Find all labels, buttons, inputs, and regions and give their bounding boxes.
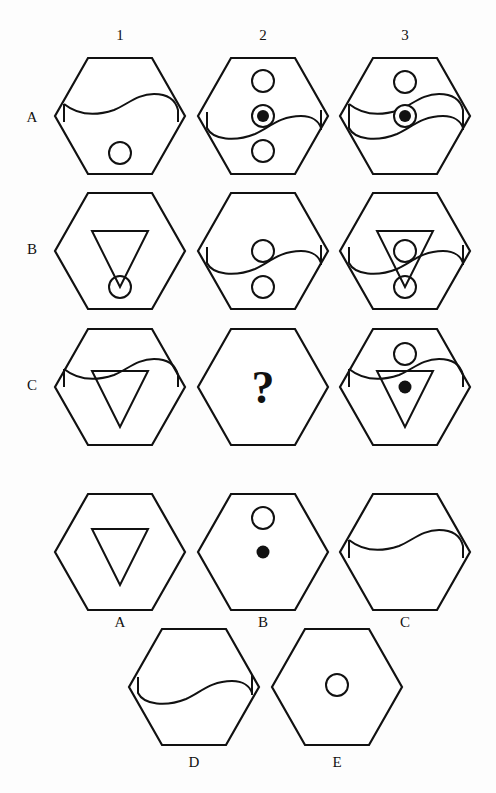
column-header-2: 2 bbox=[259, 27, 267, 43]
hexagon-frame bbox=[55, 193, 185, 309]
answer-label-e: E bbox=[332, 754, 341, 770]
answer-option-b[interactable] bbox=[198, 494, 328, 610]
cell-b1 bbox=[55, 193, 185, 309]
row-label-b: B bbox=[27, 241, 37, 257]
puzzle-canvas: 1 2 3 A B C bbox=[0, 0, 496, 793]
cell-a3 bbox=[340, 58, 470, 174]
answer-label-c: C bbox=[400, 614, 410, 630]
cell-c1 bbox=[55, 329, 185, 445]
cell-a1 bbox=[55, 58, 185, 174]
hexagon-frame bbox=[55, 494, 185, 610]
hexagon-frame bbox=[340, 494, 470, 610]
cell-a2 bbox=[198, 58, 328, 174]
answer-label-d: D bbox=[189, 754, 200, 770]
answer-label-b: B bbox=[258, 614, 268, 630]
cell-b2 bbox=[198, 193, 328, 309]
answer-option-e[interactable] bbox=[272, 629, 402, 745]
cell-c3 bbox=[340, 329, 470, 445]
answer-option-d[interactable] bbox=[129, 629, 259, 745]
dot-icon bbox=[257, 546, 270, 559]
answer-option-a[interactable] bbox=[55, 494, 185, 610]
dot-icon bbox=[399, 381, 412, 394]
hexagon-frame bbox=[272, 629, 402, 745]
cell-c2-missing[interactable]: ? bbox=[198, 329, 328, 445]
column-header-1: 1 bbox=[116, 27, 124, 43]
dot-icon bbox=[257, 110, 269, 122]
dot-icon bbox=[399, 110, 411, 122]
column-header-3: 3 bbox=[401, 27, 409, 43]
hexagon-frame bbox=[55, 58, 185, 174]
answer-label-a: A bbox=[115, 614, 126, 630]
hexagon-frame bbox=[129, 629, 259, 745]
question-mark: ? bbox=[252, 362, 275, 413]
cell-b3 bbox=[340, 193, 470, 309]
row-label-a: A bbox=[27, 109, 38, 125]
answer-option-c[interactable] bbox=[340, 494, 470, 610]
row-label-c: C bbox=[27, 377, 37, 393]
